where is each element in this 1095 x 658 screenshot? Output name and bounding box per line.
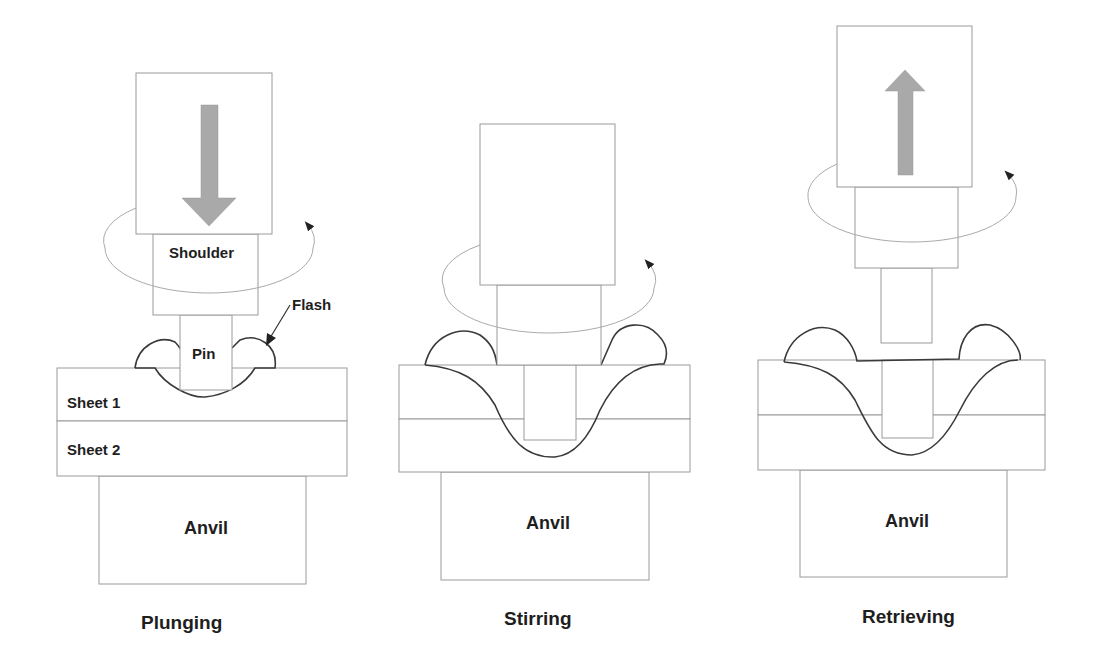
rotation-ellipse-back — [442, 245, 480, 288]
caption-stirring: Stirring — [504, 608, 572, 630]
tool-pin — [881, 268, 932, 343]
flash-label: Flash — [292, 296, 331, 313]
keyhole — [882, 360, 933, 438]
tool-shoulder — [855, 187, 958, 268]
rotation-ellipse-back — [808, 164, 837, 197]
tool-pin — [524, 365, 576, 440]
shoulder-label: Shoulder — [169, 244, 234, 261]
panel-stirring — [399, 124, 690, 580]
caption-retrieving: Retrieving — [862, 606, 955, 628]
flash-pointer-line — [270, 305, 290, 338]
anvil-label-plunging: Anvil — [184, 518, 228, 539]
rotation-ellipse-back — [104, 208, 136, 248]
flash-pointer-arrowhead-icon — [266, 333, 276, 346]
tool-holder — [480, 124, 615, 285]
sheet-1-label: Sheet 1 — [67, 394, 120, 411]
panel-plunging — [57, 73, 347, 584]
sheet-2-label: Sheet 2 — [67, 441, 120, 458]
caption-plunging: Plunging — [141, 612, 222, 634]
pin-label: Pin — [192, 345, 215, 362]
tool-shoulder — [497, 285, 601, 365]
anvil-label-stirring: Anvil — [526, 513, 570, 534]
anvil-label-retrieving: Anvil — [885, 511, 929, 532]
panel-retrieving — [758, 26, 1045, 577]
friction-stir-spot-welding-diagram — [0, 0, 1095, 658]
